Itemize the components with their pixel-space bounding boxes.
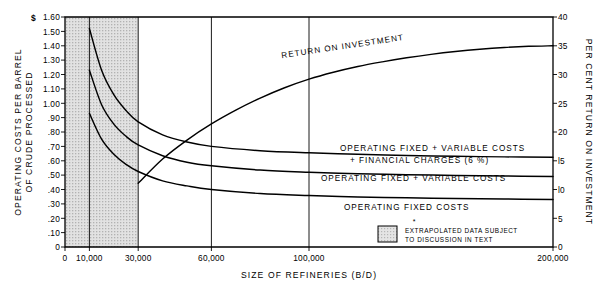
left-tick-label: .60 [48,156,60,166]
left-tick-label: 1.10 [43,84,60,94]
curve-label-fixed-costs: OPERATING FIXED COSTS [344,203,469,212]
left-axis-tick-labels: 1.60 1.50 1.40 1.30 1.20 1.10 1.00 .90 .… [43,12,60,252]
left-tick-label: 1.20 [43,70,60,80]
right-tick-label: 40 [558,12,568,22]
x-tick-label: 0 [63,253,68,263]
y-axis-right-title: PER CENT RETURN ON INVESTMENT [584,39,594,225]
legend-extrapolated-key: * EXTRAPOLATED DATA SUBJECT TO DISCUSSIO… [378,218,518,243]
curve-label-fixed-variable-costs: OPERATING FIXED + VARIABLE COSTS [321,174,506,183]
legend-asterisk: * [413,218,416,225]
curve-label-fixed-variable-financial-line1: OPERATING FIXED + VARIABLE COSTS [340,144,525,153]
x-tick-label: 60,000 [198,253,225,263]
legend-note-line1: EXTRAPOLATED DATA SUBJECT [405,227,518,234]
right-tick-label: l0 [558,185,565,195]
left-tick-label: .90 [48,113,60,123]
left-tick-label: .70 [48,142,60,152]
y-axis-left-title-line1: OPERATING COSTS PER BARREL [13,48,23,215]
curve-label-fixed-variable-financial-line2: + FINANCIAL CHARGES (6 %) [350,156,489,165]
legend-swatch-extrapolated [378,226,397,242]
left-tick-label: 0 [55,242,60,252]
right-tick-label: 30 [558,70,568,80]
right-axis-tick-labels: 40 35 30 25 20 l5 l0 5 0 [558,12,568,252]
right-tick-label: 35 [558,41,568,51]
extrapolated-shaded-band [65,17,138,247]
left-tick-label: .30 [48,199,60,209]
left-tick-label: 1.00 [43,99,60,109]
y-axis-left-title-line2: OF CRUDE PROCESSED [24,71,34,192]
right-tick-label: 5 [558,214,563,224]
chart-figure: 1.60 1.50 1.40 1.30 1.20 1.10 1.00 .90 .… [0,0,607,296]
left-tick-label: 1.50 [43,27,60,37]
left-tick-label: .50 [48,170,60,180]
left-tick-label: 1.30 [43,55,60,65]
legend-note-line2: TO DISCUSSION IN TEXT [405,236,493,243]
x-axis-tick-labels: 0 10,000 30,000 60,000 100,000 200,000 [63,253,569,263]
right-tick-label: 25 [558,99,568,109]
left-tick-label: .40 [48,185,60,195]
left-tick-label: 1.60 [43,12,60,22]
curve-label-return-on-investment: RETURN ON INVESTMENT [281,33,405,60]
x-tick-label: 100,000 [293,253,325,263]
left-tick-label: 1.40 [43,41,60,51]
chart-svg: 1.60 1.50 1.40 1.30 1.20 1.10 1.00 .90 .… [0,0,607,296]
left-tick-label: .20 [48,214,60,224]
right-tick-label: l5 [558,156,565,166]
curve-return-on-investment [138,46,553,183]
right-tick-label: 20 [558,127,568,137]
dollar-unit-symbol: $ [31,13,36,23]
x-tick-label: 200,000 [537,253,569,263]
right-tick-label: 0 [558,242,563,252]
left-tick-label: .80 [48,127,60,137]
left-tick-label: .10 [48,228,60,238]
x-tick-label: 10,000 [76,253,103,263]
x-axis-title: SIZE OF REFINERIES (B/D) [241,270,377,280]
x-tick-label: 30,000 [125,253,152,263]
